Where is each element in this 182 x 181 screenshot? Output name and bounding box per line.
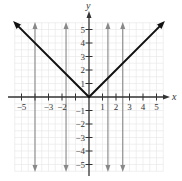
x-tick-label: −2 [57,102,67,112]
chart: −5−3−21234554321−1−2−3−4−5 x y [0,0,182,181]
x-tick-label: 2 [114,102,119,112]
y-axis-label: y [85,0,91,11]
y-tick-label: 1 [81,79,86,89]
y-tick-label: 2 [81,65,86,75]
x-tick-label: −5 [17,102,27,112]
y-tick-label: 4 [81,38,86,48]
y-tick-label: −3 [75,133,85,143]
y-tick-label: −2 [75,119,85,129]
x-tick-label: −3 [44,102,54,112]
x-tick-label: 4 [141,102,146,112]
y-tick-label: −4 [75,146,85,156]
y-tick-label: 5 [81,25,86,35]
x-axis-label: x [171,91,177,102]
x-tick-label: 1 [100,102,105,112]
y-tick-label: 3 [81,52,86,62]
y-tick-label: −1 [75,106,85,116]
x-tick-label: 5 [154,102,159,112]
x-tick-label: 3 [127,102,132,112]
y-tick-label: −5 [75,160,85,170]
